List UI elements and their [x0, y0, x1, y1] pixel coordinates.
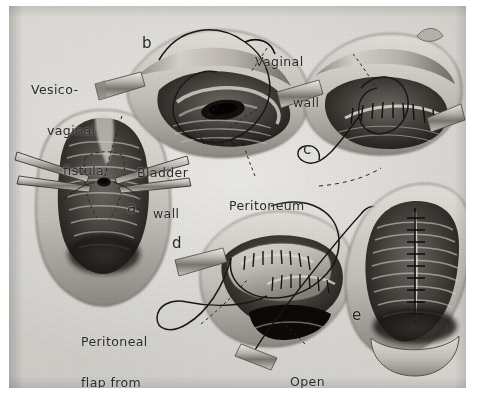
label-line: Vesico-	[31, 83, 104, 97]
label-line: Open	[274, 375, 342, 388]
panel-letter-a: a	[127, 199, 137, 217]
label-vesico-vaginal-fistula: Vesico- vaginal fistula	[31, 56, 104, 205]
panel-letter-c: c	[303, 140, 312, 158]
label-line: Vaginal	[255, 55, 319, 69]
label-peritoneal-flap: Peritoneal flap from cul-de-sac	[81, 308, 149, 388]
label-line: Bladder	[137, 166, 188, 180]
label-line: flap from	[81, 376, 149, 389]
label-line: Peritoneum	[229, 199, 305, 213]
label-line: wall	[255, 96, 319, 110]
label-bladder-wall: Bladder wall	[137, 139, 188, 247]
illustration-plate: Vesico- vaginal fistula Bladder wall Vag…	[9, 6, 466, 388]
panel-letter-d: d	[172, 234, 182, 252]
label-line: wall	[137, 207, 188, 221]
panel-letter-b: b	[142, 34, 152, 52]
label-vaginal-wall: Vaginal wall	[255, 28, 319, 136]
label-peritoneum: Peritoneum	[229, 172, 305, 240]
label-open-cul-de-sac: Open cul-de-sac	[274, 348, 342, 388]
label-line: fistula	[31, 164, 104, 178]
surgical-figure: Vesico- vaginal fistula Bladder wall Vag…	[0, 0, 477, 395]
label-line: vaginal	[31, 124, 104, 138]
panel-letter-e: e	[352, 306, 362, 324]
label-line: Peritoneal	[81, 335, 149, 349]
